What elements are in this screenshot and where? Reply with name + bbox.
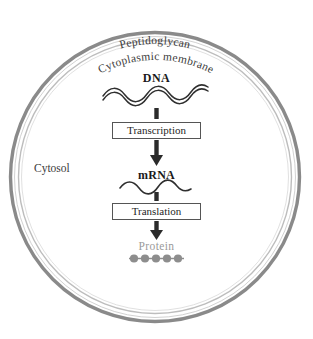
arrow-translation-to-protein (150, 221, 163, 240)
mrna-label: mRNA (0, 168, 313, 183)
dna-strand-icon (103, 85, 208, 106)
peptidoglycan-label: Peptidoglycan (118, 34, 192, 50)
protein-bead-chain-icon (129, 254, 184, 262)
diagram-canvas: Peptidoglycan Cytoplasmic membrane (0, 0, 313, 339)
arrow-transcription-to-mrna (150, 140, 163, 166)
transcription-box: Transcription (112, 122, 201, 139)
protein-label: Protein (0, 240, 313, 252)
translation-box: Translation (112, 203, 201, 220)
dna-label: DNA (0, 71, 313, 86)
